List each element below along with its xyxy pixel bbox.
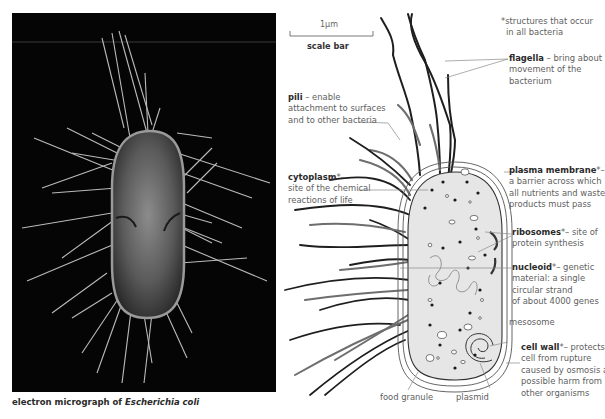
label-cytoplasm-term: cytoplasm <box>288 172 336 182</box>
label-plasma-membrane-mark: *– <box>596 165 604 175</box>
label-cell-wall: cell wall*– protects cell from rupture c… <box>521 342 605 399</box>
label-cell-wall-line2: cell from rupture <box>521 353 605 364</box>
scale-bar-line <box>290 31 373 36</box>
label-pili: pili – enable attachment to surfaces and… <box>288 92 386 126</box>
label-plasma-membrane: plasma membrane*– a barrier across which… <box>509 165 605 211</box>
label-cytoplasm-line2: site of the chemical <box>288 183 371 194</box>
label-cell-wall-line5: other organisms <box>521 388 605 399</box>
label-plasma-membrane-line3: all nutrients and waste <box>509 188 605 199</box>
label-plasmid: plasmid <box>456 392 489 403</box>
footnote: *structures that occur in all bacteria <box>501 16 593 39</box>
label-plasma-membrane-line4: products must pass <box>509 199 605 210</box>
label-ribosomes-line2: protein synthesis <box>512 238 598 249</box>
label-plasma-membrane-line2: a barrier across which <box>509 176 605 187</box>
label-pili-line3: and to other bacteria <box>288 115 386 126</box>
label-cell-wall-term: cell wall <box>521 342 559 352</box>
label-flagella-line2: movement of the <box>509 64 602 75</box>
label-cytoplasm: cytoplasm*– site of the chemical reactio… <box>288 172 371 206</box>
label-flagella-desc: – bring about <box>544 53 602 63</box>
label-ribosomes: ribosomes*– site of protein synthesis <box>512 227 598 250</box>
label-nucleoid-line2: material: a single <box>512 273 599 284</box>
footnote-line-1: *structures that occur <box>501 16 593 27</box>
label-nucleoid-line3: circular strand <box>512 285 599 296</box>
label-flagella: flagella – bring about movement of the b… <box>509 53 602 87</box>
label-mesosome: mesosome <box>509 317 555 328</box>
caption-prefix: electron micrograph of <box>12 397 125 407</box>
label-ribosomes-mark: *– site of <box>561 227 598 237</box>
label-flagella-line3: bacterium <box>509 76 602 87</box>
label-cytoplasm-mark: *– <box>336 172 344 182</box>
label-pili-line2: attachment to surfaces <box>288 103 386 114</box>
footnote-line-2: in all bacteria <box>501 27 593 38</box>
label-nucleoid-term: nucleoid <box>512 262 552 272</box>
micrograph-caption: electron micrograph of Escherichia coli <box>12 397 199 407</box>
label-ribosomes-term: ribosomes <box>512 227 561 237</box>
label-cell-wall-mark: *– protects <box>559 342 604 352</box>
label-nucleoid-line4: of about 4000 genes <box>512 296 599 307</box>
label-plasma-membrane-term: plasma membrane <box>509 165 596 175</box>
label-cell-wall-line3: caused by osmosis and <box>521 365 605 376</box>
label-pili-desc: – enable <box>303 92 341 102</box>
label-food-granule: food granule <box>380 392 433 403</box>
micrograph-image <box>12 13 276 392</box>
caption-species: Escherichia coli <box>125 397 199 407</box>
label-nucleoid-mark: *– genetic <box>552 262 594 272</box>
electron-micrograph <box>12 13 276 392</box>
scale-bar-value: 1µm <box>320 20 338 29</box>
label-cell-wall-line4: possible harm from <box>521 376 605 387</box>
label-nucleoid: nucleoid*– genetic material: a single ci… <box>512 262 599 308</box>
label-pili-term: pili <box>288 92 303 102</box>
scale-bar-label: scale bar <box>307 41 349 51</box>
label-flagella-term: flagella <box>509 53 544 63</box>
bacterium-diagram: 1µm scale bar *structures that occur in … <box>280 0 605 419</box>
label-cytoplasm-line3: reactions of life <box>288 195 371 206</box>
